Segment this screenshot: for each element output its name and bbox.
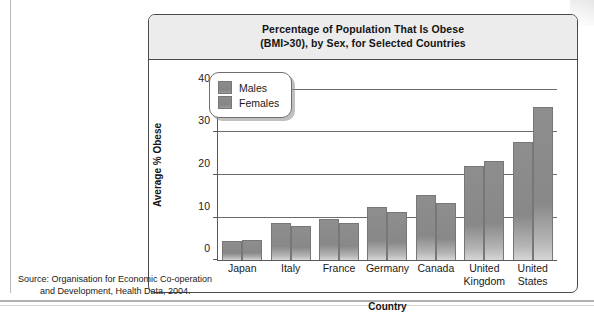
x-axis-label-line: Germany [363,262,411,275]
x-axis-label-united-kingdom: UnitedKingdom [460,262,508,288]
bar-females-italy [291,226,311,260]
y-tick-label-30: 30 [198,114,210,126]
bar-females-germany [387,212,407,260]
x-axis-label-line: Canada [412,262,460,275]
bar-males-germany [367,207,387,260]
source-note: Source: Organisation for Economic Co-ope… [18,273,338,297]
bar-males-italy [271,223,291,260]
chart-title-band: Percentage of Population That Is Obese (… [149,15,577,60]
chart-title-line-2: (BMI>30), by Sex, for Selected Countries [260,37,466,51]
x-axis-label-germany: Germany [363,262,411,288]
x-axis-label-canada: Canada [412,262,460,288]
plot-wrapper: Average % Obese 40 30 20 10 0 Males [149,60,579,293]
bar-males-canada [416,195,436,260]
y-axis-title: Average % Obese [152,123,163,207]
legend-label-females: Females [239,97,279,109]
x-axis-label-united-states: UnitedStates [509,262,557,288]
legend-swatch-icon-females [218,96,232,109]
bar-group [509,73,557,260]
bar-females-japan [242,240,262,260]
y-tick-label-20: 20 [198,157,210,169]
bar-males-japan [222,241,242,260]
bar-group [315,73,363,260]
y-tick-label-0: 0 [204,242,210,254]
bar-group [460,73,508,260]
x-axis-label-line: Kingdom [460,275,508,288]
bar-females-canada [436,203,456,260]
source-note-line-1: Source: Organisation for Economic Co-ope… [18,273,338,285]
chart-legend: Males Females [209,72,292,118]
legend-label-males: Males [239,82,267,94]
x-axis-label-line: States [509,275,557,288]
bar-males-united-states [513,142,533,260]
source-note-line-2: and Development, Health Data, 2004. [18,285,338,297]
bar-females-united-kingdom [484,161,504,260]
bar-males-france [319,219,339,260]
legend-item-males: Males [218,81,279,94]
bar-group [363,73,411,260]
x-axis-title: Country [218,301,557,312]
bar-females-united-states [533,107,553,260]
chart-title-line-1: Percentage of Population That Is Obese [262,23,464,37]
bar-group [412,73,460,260]
bar-males-united-kingdom [464,166,484,260]
page-left-rule [10,0,11,293]
chart-figure: Percentage of Population That Is Obese (… [148,14,578,293]
x-axis-label-line: United [509,262,557,275]
legend-swatch-icon-males [218,81,232,94]
x-axis-label-line: United [460,262,508,275]
bar-females-france [339,223,359,260]
y-tick-label-10: 10 [198,200,210,212]
legend-item-females: Females [218,96,279,109]
